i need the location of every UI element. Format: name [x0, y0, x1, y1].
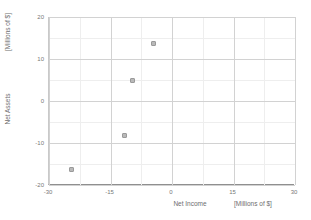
x-tick-label: 30: [279, 189, 309, 196]
gridline-horizontal: [49, 101, 295, 102]
scatter-chart: 20100-10-20 -30-1501530 [Millions of $] …: [0, 0, 311, 220]
plot-area: [48, 17, 294, 185]
x-tick-label: 0: [156, 189, 186, 196]
gridline-horizontal: [49, 59, 295, 60]
data-point: [151, 41, 156, 46]
y-axis-title: Net Assets: [4, 79, 12, 139]
y-axis-tick-labels: 20100-10-20: [16, 17, 44, 185]
data-point: [122, 133, 127, 138]
x-axis-unit-label: [Millions of $]: [234, 200, 304, 208]
y-tick-label: 0: [18, 98, 44, 105]
x-tick-label: -15: [95, 189, 125, 196]
x-axis-title: Net Income: [140, 200, 240, 208]
y-tick-label: -20: [18, 182, 44, 189]
x-tick-label: -30: [33, 189, 63, 196]
x-axis-tick-labels: -30-1501530: [48, 189, 294, 199]
gridline-horizontal: [49, 185, 295, 186]
data-point: [69, 167, 74, 172]
gridline-vertical: [295, 17, 296, 185]
x-tick-label: 15: [218, 189, 248, 196]
y-tick-label: 10: [18, 56, 44, 63]
gridline-horizontal: [49, 143, 295, 144]
y-axis-unit-label: [Millions of $]: [4, 2, 12, 62]
y-tick-label: 20: [18, 14, 44, 21]
data-point: [130, 78, 135, 83]
y-tick-label: -10: [18, 140, 44, 147]
gridline-horizontal: [49, 17, 295, 18]
